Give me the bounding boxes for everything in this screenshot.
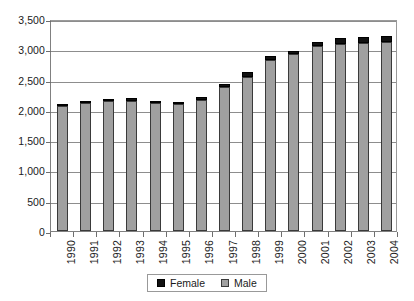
bar-segment-female	[126, 98, 137, 101]
x-axis-label: 2004	[389, 240, 399, 264]
legend-label: Female	[170, 277, 205, 289]
x-tick-mark	[50, 232, 51, 237]
bar-segment-female	[173, 102, 184, 104]
x-tick-mark	[235, 232, 236, 237]
bar-group	[57, 104, 68, 232]
x-tick-mark	[258, 232, 259, 237]
x-tick-mark	[96, 232, 97, 237]
bar-segment-male	[103, 101, 114, 231]
bar-segment-female	[219, 84, 230, 88]
plot-area	[50, 20, 397, 232]
y-axis-label: 500	[27, 197, 45, 207]
x-axis-label: 1994	[158, 240, 168, 264]
legend-label: Male	[234, 277, 257, 289]
x-axis-label: 1990	[66, 240, 76, 264]
x-axis-label: 2000	[297, 240, 307, 264]
bar-group	[219, 84, 230, 231]
legend-item-male: Male	[221, 277, 257, 289]
bar-segment-female	[335, 38, 346, 43]
x-tick-mark	[119, 232, 120, 237]
x-axis-label: 2003	[366, 240, 376, 264]
bar-segment-male	[126, 101, 137, 231]
bar-segment-female	[242, 72, 253, 77]
bar-group	[173, 102, 184, 231]
bar-segment-male	[288, 54, 299, 231]
x-axis-label: 2001	[320, 240, 330, 264]
bar-segment-male	[242, 77, 253, 231]
bar-segment-male	[312, 46, 323, 231]
y-axis-label: 3,500	[18, 15, 45, 25]
x-tick-mark	[397, 232, 398, 237]
bar-group	[150, 101, 161, 231]
bar-segment-male	[265, 60, 276, 231]
bar-group	[126, 98, 137, 231]
x-axis-label: 2002	[343, 240, 353, 264]
bar-segment-female	[80, 101, 91, 103]
y-axis-label: 2,000	[18, 106, 45, 116]
x-tick-mark	[304, 232, 305, 237]
bar-segment-male	[381, 42, 392, 231]
x-tick-mark	[212, 232, 213, 237]
male-swatch	[221, 279, 229, 287]
x-tick-mark	[189, 232, 190, 237]
female-swatch	[157, 279, 165, 287]
x-axis-label: 1999	[274, 240, 284, 264]
chart-legend: FemaleMale	[147, 274, 267, 292]
y-axis-label: 2,500	[18, 76, 45, 86]
bar-segment-male	[196, 100, 207, 231]
bar-group	[265, 56, 276, 231]
bars-layer	[51, 21, 396, 231]
bar-segment-male	[173, 104, 184, 231]
bar-segment-male	[80, 103, 91, 231]
bar-segment-female	[103, 99, 114, 102]
bar-segment-female	[57, 104, 68, 107]
bar-segment-female	[150, 101, 161, 103]
x-tick-mark	[351, 232, 352, 237]
bar-segment-male	[358, 43, 369, 231]
bar-group	[103, 99, 114, 231]
x-axis-label: 1992	[112, 240, 122, 264]
y-axis-label: 1,000	[18, 166, 45, 176]
bar-segment-female	[196, 97, 207, 99]
bar-segment-female	[265, 56, 276, 60]
bar-group	[358, 37, 369, 231]
x-axis-label: 1996	[204, 240, 214, 264]
bar-group	[242, 72, 253, 231]
bar-segment-male	[57, 106, 68, 231]
bar-segment-female	[288, 51, 299, 54]
x-axis-label: 1993	[135, 240, 145, 264]
bar-segment-female	[381, 36, 392, 42]
x-tick-mark	[328, 232, 329, 237]
x-axis-label: 1991	[89, 240, 99, 264]
bar-segment-female	[312, 42, 323, 46]
x-axis-label: 1995	[181, 240, 191, 264]
bar-group	[196, 97, 207, 231]
x-tick-mark	[374, 232, 375, 237]
bar-group	[381, 36, 392, 231]
bar-group	[312, 42, 323, 231]
bar-segment-female	[358, 37, 369, 42]
x-tick-mark	[281, 232, 282, 237]
bar-segment-male	[335, 44, 346, 231]
legend-item-female: Female	[157, 277, 205, 289]
bar-segment-male	[219, 87, 230, 231]
x-tick-mark	[166, 232, 167, 237]
bar-group	[335, 38, 346, 231]
x-tick-mark	[73, 232, 74, 237]
bar-segment-male	[150, 103, 161, 231]
bar-chart: 3,5003,0002,5002,0001,5001,0005000 19901…	[0, 0, 414, 301]
y-axis-label: 0	[39, 227, 45, 237]
bar-group	[288, 51, 299, 231]
y-axis-label: 3,000	[18, 45, 45, 55]
y-axis-label: 1,500	[18, 136, 45, 146]
x-tick-mark	[143, 232, 144, 237]
bar-group	[80, 101, 91, 231]
x-axis-label: 1997	[228, 240, 238, 264]
x-axis-label: 1998	[251, 240, 261, 264]
